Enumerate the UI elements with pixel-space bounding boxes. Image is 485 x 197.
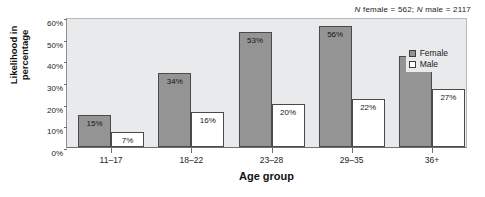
bar-male[interactable]: 16% [191,112,224,147]
legend-label-female: Female [420,48,448,59]
n-male-text: male = 2117 [423,5,471,14]
bar-group: 34%16% [158,19,224,147]
bar-group: 53%20% [239,19,305,147]
bar-value-label: 16% [192,116,223,125]
plot-area: 0%10%20%30%40%50%60% 15%7%34%16%53%20%56… [66,18,467,148]
bar-value-label: 15% [79,119,110,128]
legend-item-male: Male [409,59,448,70]
legend-item-female: Female [409,48,448,59]
bar-group: 15%7% [78,19,144,147]
legend-label-male: Male [420,59,438,70]
sample-size-annotation: N female = 562; N male = 2117 [355,5,471,14]
bar-value-label: 53% [240,36,271,45]
bar-value-label: 56% [320,30,351,39]
x-axis-tick-label: 11–17 [78,147,144,165]
x-axis-tick-label: 23–28 [239,147,305,165]
bar-male[interactable]: 22% [352,99,385,147]
n-female-text: female = 562; [361,5,417,14]
bar-value-label: 7% [112,136,143,145]
bar-value-label: 20% [273,108,304,117]
bar-female[interactable]: 34% [158,73,191,147]
y-axis-label: Likelihood in percentage [8,0,34,114]
y-axis-label-line1: Likelihood in [8,0,19,114]
y-axis-label-line2: percentage [19,0,30,114]
bar-male[interactable]: 27% [432,89,465,148]
x-axis-tick-label: 29–35 [319,147,385,165]
legend-swatch-male-icon [409,61,416,68]
x-axis-label: Age group [66,170,467,182]
bar-male[interactable]: 7% [111,132,144,147]
bar-female[interactable]: 15% [78,115,111,148]
legend: Female Male [406,46,452,72]
x-axis-tick-label: 36+ [399,147,465,165]
bar-group: 42%27% [399,19,465,147]
bar-chart-figure: N female = 562; N male = 2117 Likelihood… [0,0,485,197]
bar-male[interactable]: 20% [272,104,305,147]
bar-group: 56%22% [319,19,385,147]
x-axis-tick-label: 18–22 [158,147,224,165]
bar-value-label: 22% [353,103,384,112]
bar-female[interactable]: 56% [319,26,352,147]
bar-female[interactable]: 53% [239,32,272,147]
bar-value-label: 34% [159,77,190,86]
bar-value-label: 27% [433,93,464,102]
legend-swatch-female-icon [409,50,416,57]
